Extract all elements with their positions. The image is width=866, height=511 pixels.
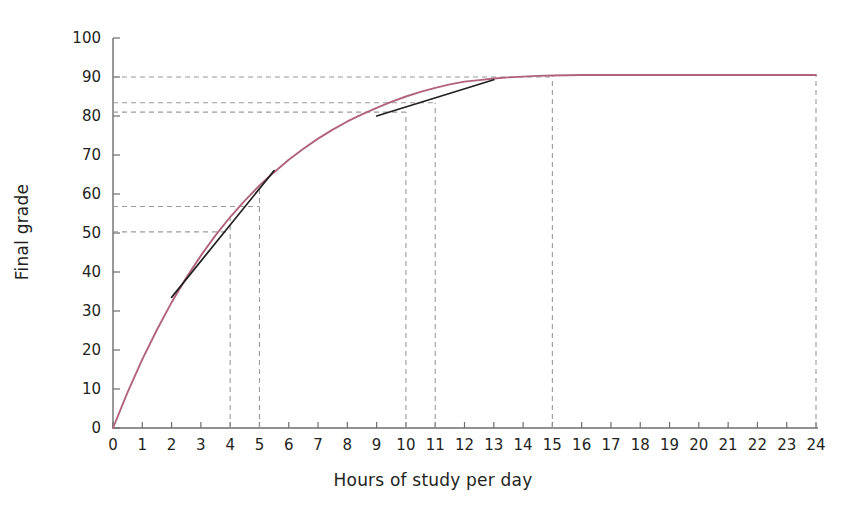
data-series [113, 75, 816, 428]
y-tick-label: 70 [61, 146, 101, 164]
y-tick-label: 30 [61, 302, 101, 320]
plot-area [0, 0, 866, 511]
chart-figure: 0123456789101112131415161718192021222324… [0, 0, 866, 511]
y-tick-label: 100 [61, 29, 101, 47]
y-tick-label: 60 [61, 185, 101, 203]
y-tick-label: 80 [61, 107, 101, 125]
y-tick-label: 90 [61, 68, 101, 86]
y-tick-label: 0 [61, 419, 101, 437]
x-axis-title: Hours of study per day [0, 470, 866, 490]
y-tick-label: 50 [61, 224, 101, 242]
x-tick-label: 24 [796, 436, 836, 454]
y-tick-label: 40 [61, 263, 101, 281]
y-tick-label: 10 [61, 380, 101, 398]
y-axis-title: Final grade [12, 152, 32, 312]
y-tick-label: 20 [61, 341, 101, 359]
axis-lines [113, 38, 818, 428]
reference-lines [113, 75, 816, 428]
